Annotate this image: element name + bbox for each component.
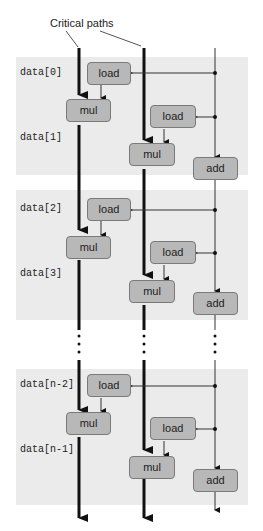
- load-box: load: [150, 105, 196, 128]
- data-label: data[n-1]: [20, 444, 74, 455]
- load-box: load: [87, 62, 131, 85]
- mul-box: mul: [129, 280, 175, 303]
- mul-box: mul: [66, 236, 111, 259]
- load-box: load: [150, 241, 196, 264]
- load-box: load: [87, 198, 131, 221]
- data-label: data[0]: [20, 67, 62, 78]
- add-box: add: [193, 469, 238, 492]
- data-label: data[2]: [20, 203, 62, 214]
- add-box: add: [193, 292, 238, 315]
- mul-box: mul: [129, 143, 175, 166]
- data-label: data[3]: [20, 268, 62, 279]
- mul-box: mul: [66, 99, 111, 122]
- data-label: data[n-2]: [20, 379, 74, 390]
- mul-box: mul: [66, 412, 111, 435]
- data-label: data[1]: [20, 132, 62, 143]
- load-box: load: [87, 374, 131, 397]
- mul-box: mul: [129, 456, 175, 479]
- load-box: load: [150, 417, 196, 440]
- add-box: add: [193, 157, 238, 180]
